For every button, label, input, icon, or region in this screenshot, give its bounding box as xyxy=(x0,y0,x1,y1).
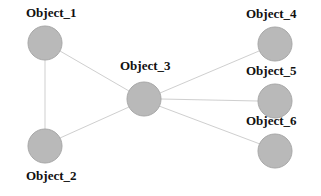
graph-node-label-object_5: Object_5 xyxy=(246,64,297,78)
graph-node-label-object_1: Object_1 xyxy=(26,6,77,20)
graph-node-object_4[interactable] xyxy=(258,27,292,61)
graph-diagram: Object_1Object_2Object_3Object_4Object_5… xyxy=(0,0,321,196)
graph-node-object_3[interactable] xyxy=(127,82,161,116)
graph-node-label-object_3: Object_3 xyxy=(120,59,171,73)
graph-edge-object_2-object_3 xyxy=(60,107,129,138)
graph-node-object_1[interactable] xyxy=(28,26,62,60)
graph-node-object_6[interactable] xyxy=(258,134,292,168)
graph-node-object_2[interactable] xyxy=(28,129,62,163)
graph-node-label-object_2: Object_2 xyxy=(26,169,77,183)
graph-edge-object_3-object_6 xyxy=(159,106,260,144)
graph-edge-object_1-object_3 xyxy=(60,51,129,91)
graph-canvas-svg xyxy=(0,0,321,196)
graph-node-label-object_4: Object_4 xyxy=(246,7,297,21)
graph-edge-object_3-object_5 xyxy=(161,99,258,101)
nodes-layer xyxy=(28,26,292,168)
graph-edge-object_3-object_4 xyxy=(160,51,259,93)
graph-node-label-object_6: Object_6 xyxy=(246,114,297,128)
